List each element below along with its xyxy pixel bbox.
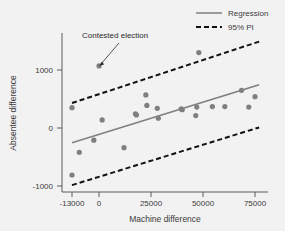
x-tick-label: 25000 (140, 199, 163, 208)
data-point (239, 88, 244, 93)
data-point (134, 112, 139, 117)
legend-label-regression: Regression (228, 9, 268, 18)
data-point (143, 92, 148, 97)
data-point (210, 104, 215, 109)
data-point (144, 103, 149, 108)
y-tick-label: 0 (49, 124, 54, 133)
data-point (194, 105, 199, 110)
x-tick-label: 0 (97, 199, 102, 208)
data-point (196, 50, 201, 55)
y-tick-label: 1000 (35, 66, 53, 75)
data-point (155, 106, 160, 111)
data-point (69, 172, 74, 177)
data-point (100, 117, 105, 122)
y-tick-label: -1000 (33, 182, 54, 191)
y-axis-title: Absentee difference (8, 75, 18, 151)
x-tick-label: -13000 (60, 199, 85, 208)
data-point (77, 150, 82, 155)
data-point (156, 116, 161, 121)
annotation-label: Contested election (82, 31, 148, 40)
data-point (193, 113, 198, 118)
data-point (222, 104, 227, 109)
chart-figure: Regression 95% PI -13000 0 25000 50000 7… (0, 0, 285, 231)
data-point (246, 105, 251, 110)
data-point (252, 94, 257, 99)
x-tick-label: 50000 (192, 199, 215, 208)
scatter-plot: Regression 95% PI -13000 0 25000 50000 7… (0, 0, 285, 231)
x-axis-title: Machine difference (129, 214, 201, 224)
data-point (91, 138, 96, 143)
legend-label-95-pi: 95% PI (228, 23, 254, 32)
data-point (121, 145, 126, 150)
data-point (180, 107, 185, 112)
x-tick-label: 75000 (244, 199, 267, 208)
data-point (69, 105, 74, 110)
